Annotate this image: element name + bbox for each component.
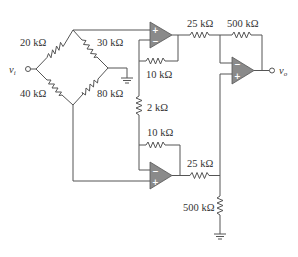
label-20k: 20 kΩ xyxy=(20,37,46,48)
label-500k-feedback: 500 kΩ xyxy=(227,18,259,29)
output-terminal-circle xyxy=(270,68,275,73)
resistor-25k-top xyxy=(178,32,220,38)
svg-text:+: + xyxy=(152,26,159,35)
resistor-30k xyxy=(73,30,108,68)
label-2k: 2 kΩ xyxy=(147,102,168,113)
bridge-ground xyxy=(108,68,133,83)
label-30k: 30 kΩ xyxy=(97,37,123,48)
label-500k-ground: 500 kΩ xyxy=(183,202,215,213)
ground-icon xyxy=(121,78,133,83)
resistor-25k-bottom xyxy=(190,173,220,179)
wire-bottom-node xyxy=(73,105,150,181)
opamp-top: + − xyxy=(150,22,172,48)
svg-text:−: − xyxy=(234,60,241,69)
ground-icon xyxy=(214,234,226,239)
input-terminal: vi xyxy=(9,64,36,77)
circuit-diagram: vi 20 kΩ 30 kΩ 40 kΩ 80 kΩ xyxy=(0,0,298,257)
svg-text:−: − xyxy=(152,37,159,46)
label-80k: 80 kΩ xyxy=(97,88,123,99)
resistor-80k xyxy=(73,68,108,105)
resistor-2k xyxy=(136,61,142,170)
resistor-40k xyxy=(36,69,73,105)
opamp-output: − + xyxy=(232,57,254,84)
opamp-bottom: − + xyxy=(150,162,172,189)
input-label: vi xyxy=(9,64,16,77)
label-10k-top: 10 kΩ xyxy=(146,69,172,80)
wheatstone-bridge: 20 kΩ 30 kΩ 40 kΩ 80 kΩ xyxy=(20,30,123,105)
svg-text:+: + xyxy=(234,72,241,81)
input-terminal-circle xyxy=(26,67,31,72)
output-terminal: vo xyxy=(270,65,288,78)
svg-text:+: + xyxy=(152,178,159,187)
wire-noninverting-node xyxy=(220,74,232,196)
resistor-500k-ground xyxy=(217,196,223,234)
resistor-20k xyxy=(36,30,73,69)
svg-text:−: − xyxy=(152,167,159,176)
label-40k: 40 kΩ xyxy=(20,88,46,99)
label-25k-bottom: 25 kΩ xyxy=(187,158,213,169)
label-10k-bottom: 10 kΩ xyxy=(147,127,173,138)
output-label: vo xyxy=(279,65,288,78)
label-25k-top: 25 kΩ xyxy=(187,18,213,29)
